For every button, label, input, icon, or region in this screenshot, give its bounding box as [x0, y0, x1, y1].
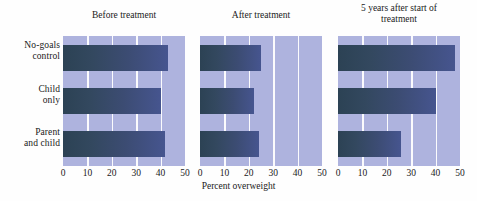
- x-tick-label: 20: [244, 168, 254, 178]
- category-label-no-goals-control: No-goals control: [0, 40, 60, 61]
- gridline: [298, 36, 300, 166]
- panel-title: 5 years after start of treatment: [324, 3, 474, 25]
- plot-area: [63, 36, 185, 166]
- x-tick-label: 0: [61, 168, 66, 178]
- category-axis-labels: No-goals control Child only Parent and c…: [0, 36, 60, 166]
- x-tick-label: 40: [431, 168, 441, 178]
- panel-before-treatment: Before treatment: [63, 36, 185, 166]
- x-tick-label: 40: [293, 168, 303, 178]
- x-tick-label: 50: [455, 168, 465, 178]
- x-tick-label: 40: [156, 168, 166, 178]
- x-tick-label: 30: [268, 168, 278, 178]
- plot-area: [338, 36, 460, 166]
- x-tick-label: 30: [131, 168, 141, 178]
- category-label-line1: Parent: [35, 127, 60, 137]
- x-tick-label: 0: [198, 168, 203, 178]
- x-tick-label: 20: [382, 168, 392, 178]
- chart-figure: No-goals control Child only Parent and c…: [0, 0, 477, 201]
- plot-area: [200, 36, 322, 166]
- x-tick-label: 10: [83, 168, 93, 178]
- x-axis: 01020304050: [200, 168, 322, 182]
- x-tick-label: 10: [220, 168, 230, 178]
- category-label-line2: only: [0, 95, 60, 106]
- panel-title: After treatment: [186, 10, 336, 21]
- x-tick-label: 0: [336, 168, 341, 178]
- panel-title: Before treatment: [49, 10, 199, 21]
- bar: [338, 45, 455, 71]
- x-axis: 01020304050: [63, 168, 185, 182]
- category-label-line2: control: [0, 51, 60, 62]
- panel-title-line1: Before treatment: [92, 10, 156, 20]
- bar: [200, 88, 254, 114]
- category-label-child-only: Child only: [0, 84, 60, 105]
- bar: [200, 45, 261, 71]
- x-axis: 01020304050: [338, 168, 460, 182]
- bar: [338, 88, 436, 114]
- x-axis-label: Percent overweight: [0, 181, 477, 191]
- category-label-parent-and-child: Parent and child: [0, 127, 60, 148]
- panel-title-line1: After treatment: [232, 10, 290, 20]
- bar: [63, 45, 168, 71]
- bar: [63, 88, 161, 114]
- x-tick-label: 50: [317, 168, 327, 178]
- panel-five-years-after-start-of-treatment: 5 years after start of treatment: [338, 36, 460, 166]
- bar: [63, 131, 165, 157]
- category-label-line1: No-goals: [24, 40, 60, 50]
- category-label-line2: and child: [0, 138, 60, 149]
- bar: [338, 131, 401, 157]
- bar: [200, 131, 259, 157]
- panel-title-line2: treatment: [324, 14, 474, 25]
- gridline: [273, 36, 275, 166]
- category-label-line1: Child: [38, 84, 60, 94]
- panel-title-line1: 5 years after start of: [361, 3, 437, 13]
- panel-after-treatment: After treatment: [200, 36, 322, 166]
- x-tick-label: 30: [406, 168, 416, 178]
- x-tick-label: 50: [180, 168, 190, 178]
- x-tick-label: 20: [107, 168, 117, 178]
- x-tick-label: 10: [358, 168, 368, 178]
